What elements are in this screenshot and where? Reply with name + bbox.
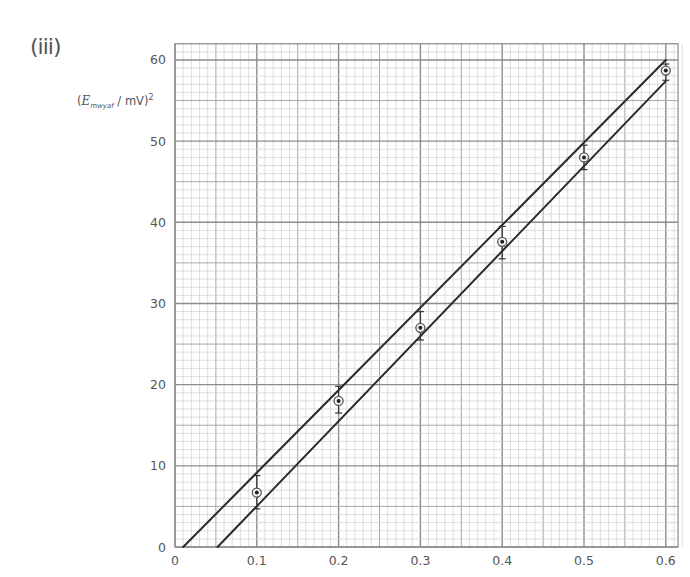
x-tick-label: 0 [171, 553, 179, 568]
y-tick-label: 20 [150, 377, 166, 392]
x-tick-label: 0.1 [247, 553, 267, 568]
y-tick-label: 30 [150, 296, 166, 311]
x-tick-label: 0.2 [329, 553, 349, 568]
shallowest-line [218, 81, 666, 547]
graph-paper-chart: 00.10.20.30.40.50.60102030405060 [0, 0, 690, 577]
y-tick-label: 0 [158, 540, 166, 555]
data-point [580, 145, 589, 169]
y-tick-label: 60 [150, 52, 166, 67]
x-tick-label: 0.4 [492, 553, 512, 568]
x-tick-label: 0.6 [656, 553, 676, 568]
y-tick-label: 10 [150, 458, 166, 473]
x-tick-label: 0.3 [410, 553, 430, 568]
data-point [661, 64, 670, 80]
y-tick-label: 50 [150, 134, 166, 149]
y-tick-label: 40 [150, 215, 166, 230]
x-tick-label: 0.5 [574, 553, 594, 568]
